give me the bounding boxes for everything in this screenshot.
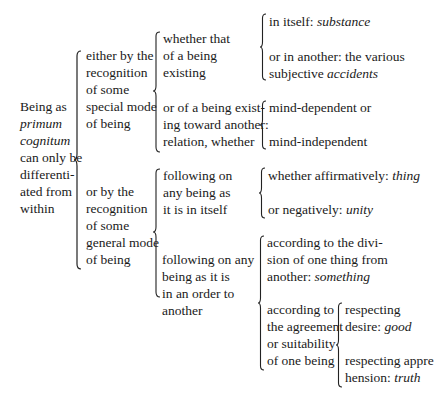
term-accidents: accidents xyxy=(327,66,378,81)
leaf-something: according to the divi- sion of one thing… xyxy=(267,234,388,285)
sub-agreement: according to the agreement or suitabilit… xyxy=(267,301,343,369)
leaf-text: another: xyxy=(267,269,315,284)
leaf-text: respecting appre xyxy=(345,352,434,369)
leaf-text: sion of one thing from xyxy=(267,251,388,268)
root-brace-icon xyxy=(73,50,83,270)
branch-line: of some xyxy=(86,81,157,98)
sub-line: of one being xyxy=(267,352,343,369)
relation-brace-icon xyxy=(259,100,268,150)
sub-in-order: following on any being as it is in an or… xyxy=(162,251,254,319)
sub-line: ing toward another: xyxy=(163,116,269,133)
special-brace-icon xyxy=(152,31,162,153)
sub-line: it is in itself xyxy=(163,201,232,218)
leaf-thing: whether affirmatively: thing xyxy=(268,167,420,184)
sub-existing: whether that of a being existing xyxy=(163,30,230,81)
leaf-text: according to the divi- xyxy=(267,234,388,251)
leaf-text: in itself: xyxy=(269,14,317,29)
sub-line: the agreement xyxy=(267,318,343,335)
leaf-mind-dependent: mind-dependent or xyxy=(269,99,371,116)
sub-line: of a being xyxy=(163,47,230,64)
branch-special-mode: either by the recognition of some specia… xyxy=(86,47,157,132)
sub-line: relation, whether xyxy=(163,133,269,150)
general-brace-icon xyxy=(152,168,162,298)
existing-brace-icon xyxy=(259,13,268,81)
sub-line: whether that xyxy=(163,30,230,47)
branch-line: of some xyxy=(86,217,159,234)
leaf-text: or negatively: xyxy=(268,202,346,217)
branch-line: general mode xyxy=(86,234,159,251)
sub-line: following on any xyxy=(162,251,254,268)
sub-relation: or of a being exist- ing toward another:… xyxy=(163,99,269,150)
leaf-substance: in itself: substance xyxy=(269,13,370,30)
leaf-accidents: or in another: the various subjective ac… xyxy=(269,48,405,82)
branch-general-mode: or by the recognition of some general mo… xyxy=(86,183,159,268)
root-line-italic: cognitum xyxy=(20,133,70,148)
leaf-text: hension: xyxy=(345,370,394,385)
leaf-text: subjective xyxy=(269,66,327,81)
branch-line: of being xyxy=(86,251,159,268)
branch-line: recognition xyxy=(86,200,159,217)
sub-line: or of a being exist- xyxy=(163,99,269,116)
leaf-unity: or negatively: unity xyxy=(268,201,373,218)
order-brace-icon xyxy=(257,235,266,371)
sub-line: existing xyxy=(163,64,230,81)
term-substance: substance xyxy=(317,14,370,29)
term-something: something xyxy=(315,269,371,284)
branch-line: or by the xyxy=(86,183,159,200)
sub-line: following on xyxy=(163,167,232,184)
leaf-text: desire: xyxy=(345,319,384,334)
leaf-text: respecting xyxy=(345,301,411,318)
leaf-text: or in another: the various xyxy=(269,48,405,65)
itself-brace-icon xyxy=(258,167,267,219)
leaf-mind-independent: mind-independent xyxy=(269,133,367,150)
sub-line: any being as xyxy=(163,184,232,201)
sub-line: in an order to xyxy=(162,285,254,302)
branch-line: recognition xyxy=(86,64,157,81)
sub-in-itself: following on any being as it is in itsel… xyxy=(163,167,232,218)
term-thing: thing xyxy=(392,168,420,183)
term-truth: truth xyxy=(394,370,420,385)
branch-line: of being xyxy=(86,115,157,132)
root-line-italic: primum xyxy=(20,116,62,131)
sub-line: another xyxy=(162,302,254,319)
sub-line: being as it is xyxy=(162,268,254,285)
term-good: good xyxy=(384,319,411,334)
leaf-good: respecting desire: good xyxy=(345,301,411,335)
leaf-text: whether affirmatively: xyxy=(268,168,392,183)
branch-line: either by the xyxy=(86,47,157,64)
leaf-truth: respecting appre hension: truth xyxy=(345,352,434,386)
agreement-brace-icon xyxy=(335,302,344,388)
term-unity: unity xyxy=(346,202,373,217)
sub-line: or suitability xyxy=(267,335,343,352)
branch-line: special mode xyxy=(86,98,157,115)
sub-line: according to xyxy=(267,301,343,318)
